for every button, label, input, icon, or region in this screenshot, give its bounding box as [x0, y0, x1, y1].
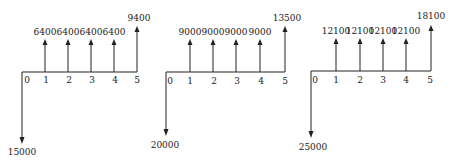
period-label: 3: [89, 75, 95, 85]
arrow-up-icon: [429, 25, 434, 31]
cash-flow-diagram-1: 15000 6400 6400 6400 6400 9400 0 1 2 3 4…: [8, 13, 151, 157]
period-label: 0: [24, 75, 30, 85]
period-label: 2: [66, 75, 72, 85]
arrow-up-icon: [334, 38, 339, 44]
period-label: 0: [167, 76, 173, 86]
outflow-label: 20000: [151, 140, 180, 150]
period-label: 5: [134, 75, 140, 85]
period-label: 1: [43, 75, 49, 85]
final-inflow-label: 13500: [273, 13, 302, 23]
cash-flow-diagram-3: 25000 12100 12100 12100 12100 18100 0 1 …: [299, 11, 446, 152]
arrow-up-icon: [66, 39, 71, 45]
arrow-down-icon: [20, 137, 25, 144]
inflow-label: 9000: [202, 27, 225, 37]
period-label: 1: [333, 75, 339, 85]
period-label: 4: [403, 75, 409, 85]
arrow-up-icon: [234, 39, 239, 45]
period-label: 4: [258, 76, 264, 86]
arrow-up-icon: [258, 39, 263, 45]
arrow-up-icon: [135, 26, 140, 32]
inflow-label: 9000: [179, 27, 202, 37]
arrow-down-icon: [164, 129, 169, 136]
inflow-label: 9000: [249, 27, 272, 37]
outflow-label: 15000: [8, 147, 37, 157]
inflow-label: 6400: [103, 27, 126, 37]
arrow-up-icon: [283, 26, 288, 32]
arrow-up-icon: [43, 39, 48, 45]
arrow-up-icon: [188, 39, 193, 45]
arrow-up-icon: [112, 39, 117, 45]
period-label: 4: [112, 75, 118, 85]
period-label: 1: [187, 76, 193, 86]
period-label: 5: [282, 76, 288, 86]
arrow-up-icon: [404, 38, 409, 44]
period-label: 3: [234, 76, 240, 86]
inflow-label: 6400: [80, 27, 103, 37]
period-label: 3: [380, 75, 386, 85]
inflow-label: 9000: [225, 27, 248, 37]
period-label: 2: [211, 76, 217, 86]
arrow-up-icon: [89, 39, 94, 45]
arrow-down-icon: [309, 131, 314, 138]
outflow-label: 25000: [299, 142, 328, 152]
cash-flow-diagrams: 15000 6400 6400 6400 6400 9400 0 1 2 3 4…: [0, 0, 456, 167]
inflow-label: 12100: [392, 26, 421, 36]
inflow-label: 6400: [34, 27, 57, 37]
cash-flow-diagram-2: 20000 9000 9000 9000 9000 13500 0 1 2 3 …: [151, 13, 302, 150]
arrow-up-icon: [381, 38, 386, 44]
final-inflow-label: 9400: [128, 13, 151, 23]
arrow-up-icon: [211, 39, 216, 45]
inflow-label: 6400: [57, 27, 80, 37]
final-inflow-label: 18100: [417, 11, 446, 21]
period-label: 0: [312, 75, 318, 85]
period-label: 5: [427, 75, 433, 85]
arrow-up-icon: [358, 38, 363, 44]
period-label: 2: [357, 75, 363, 85]
